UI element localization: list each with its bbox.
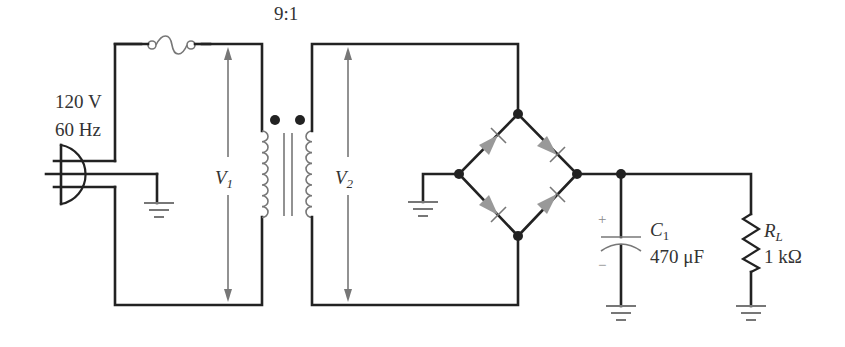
ground-icon xyxy=(736,306,766,320)
v2-label: V2 xyxy=(335,167,354,191)
capacitor-name-label: C1 xyxy=(650,219,669,243)
capacitor-icon xyxy=(601,174,641,306)
ac-plug-icon xyxy=(46,145,157,204)
ground-icon xyxy=(606,306,636,320)
ground-icon xyxy=(144,203,174,217)
source-frequency-label: 60 Hz xyxy=(55,119,101,140)
v1-label: V1 xyxy=(215,167,233,191)
transformer-icon xyxy=(262,115,312,217)
bridge-rectifier xyxy=(454,109,582,241)
rectifier-circuit: 120 V 60 Hz V1 9:1 xyxy=(0,0,845,347)
resistor-value-label: 1 kΩ xyxy=(764,246,802,267)
turns-ratio-label: 9:1 xyxy=(274,3,298,24)
ground-icon xyxy=(408,202,438,216)
capacitor-value-label: 470 μF xyxy=(650,246,704,267)
resistor-icon xyxy=(743,214,759,306)
capacitor-minus-label: − xyxy=(598,257,606,273)
fuse-icon xyxy=(115,36,210,54)
capacitor-plus-label: + xyxy=(598,211,606,227)
source-voltage-label: 120 V xyxy=(55,91,102,112)
resistor-name-label: RL xyxy=(763,220,783,244)
